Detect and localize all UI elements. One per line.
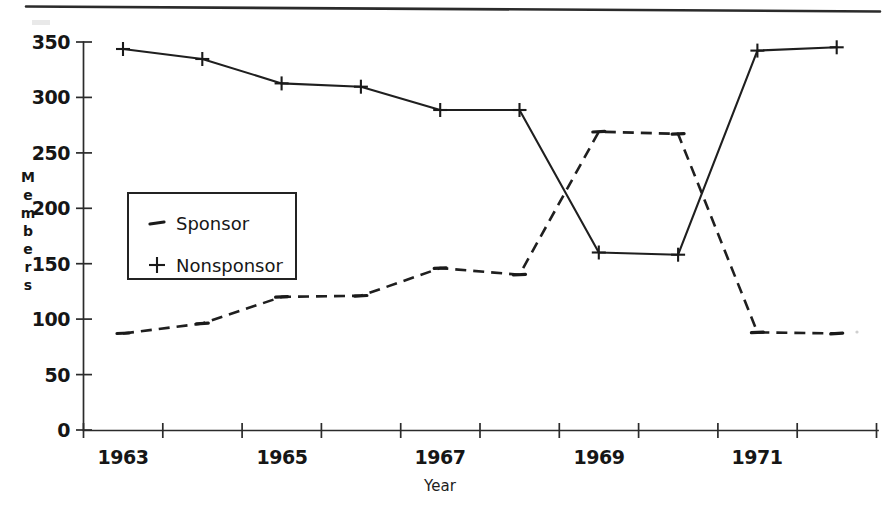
scan-speck-right [855, 330, 858, 333]
y-axis-title-char-4: e [23, 241, 33, 257]
scan-speck-topleft [32, 20, 50, 25]
x-axis-title: Year [423, 477, 457, 495]
x-tick-label-1965: 1965 [257, 446, 308, 468]
chart-legend[interactable]: Sponsor Nonsponsor [128, 193, 296, 279]
y-axis-title-char-5: r [25, 259, 32, 275]
x-tick-label-1969: 1969 [574, 446, 625, 468]
legend-label-sponsor: Sponsor [176, 213, 250, 234]
members-by-year-line-chart: 350 300 250 200 150 100 50 0 M e m b e r… [0, 0, 889, 512]
y-tick-label-150: 150 [32, 253, 70, 275]
x-tick-label-1967: 1967 [415, 446, 466, 468]
y-tick-label-350: 350 [32, 31, 70, 53]
y-axis-title-char-6: s [24, 277, 32, 293]
legend-dash-icon [150, 222, 164, 224]
y-tick-label-300: 300 [32, 86, 70, 108]
y-tick-label-50: 50 [45, 364, 71, 386]
y-axis-title-char-0: M [21, 169, 35, 185]
y-axis-title-char-3: b [23, 223, 33, 239]
y-axis-title-char-2: m [21, 205, 36, 221]
legend-label-nonsponsor: Nonsponsor [176, 255, 284, 276]
y-tick-label-250: 250 [32, 142, 70, 164]
x-tick-label-1971: 1971 [732, 446, 783, 468]
x-tick-label-1963: 1963 [98, 446, 149, 468]
y-tick-label-200: 200 [32, 197, 70, 219]
y-tick-label-100: 100 [32, 308, 70, 330]
y-tick-label-0: 0 [57, 419, 70, 441]
y-axis-title-char-1: e [23, 187, 33, 203]
